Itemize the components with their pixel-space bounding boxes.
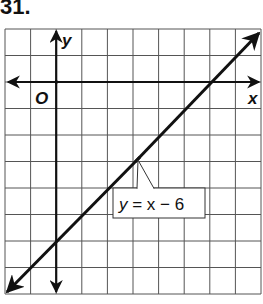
line-y-equals-x-minus-6	[135, 33, 259, 162]
x-axis-label: x	[247, 89, 259, 108]
origin-label: O	[35, 89, 48, 108]
callout-equation: y = x − 6	[118, 195, 184, 214]
coordinate-graph: y x O y = x − 6	[0, 0, 263, 304]
line-y-equals-x-minus-6	[7, 157, 140, 292]
callout-rest: = x − 6	[128, 195, 185, 214]
y-axis-label: y	[61, 31, 73, 50]
